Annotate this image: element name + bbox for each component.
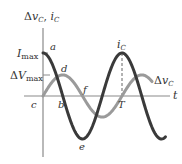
point-b-label: b xyxy=(58,99,64,110)
point-f-label: f xyxy=(82,84,89,95)
vc-curve-label: ΔvC xyxy=(154,74,174,88)
ic-curve-label: iC xyxy=(117,38,127,52)
point-e-label: e xyxy=(79,141,85,152)
point-c-label: c xyxy=(31,99,37,110)
point-d-label: d xyxy=(61,63,67,74)
vmax-label: ΔVmax xyxy=(10,69,43,83)
imax-label: Imax xyxy=(16,47,39,61)
period-T-label: T xyxy=(118,99,126,110)
capacitor-ac-diagram: ΔvC, iC t Imax ΔVmax a b c d e f T iC Δv… xyxy=(0,0,182,164)
y-axis-label: ΔvC, iC xyxy=(24,10,60,24)
point-a-label: a xyxy=(50,41,56,52)
t-axis-label: t xyxy=(173,89,178,102)
